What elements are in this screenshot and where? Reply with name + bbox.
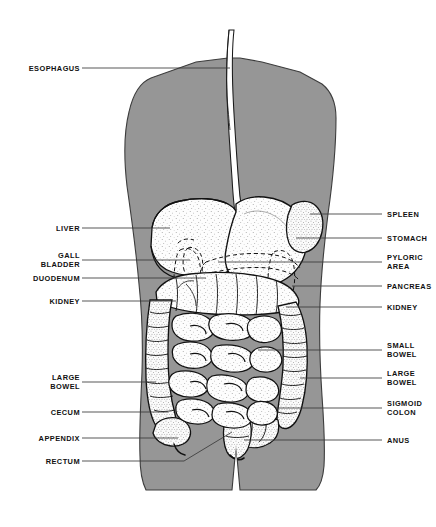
label-spleen: SPLEEN [387, 210, 436, 220]
anatomy-figure: ESOPHAGUS LIVER GALL BLADDER DUODENUM KI… [0, 0, 436, 527]
label-anus: ANUS [387, 436, 436, 446]
label-cecum: CECUM [0, 408, 80, 418]
label-large-bowel-right-line2: BOWEL [387, 378, 436, 388]
label-duodenum: DUODENUM [0, 274, 80, 284]
label-large-bowel-left-line2: BOWEL [0, 382, 80, 392]
label-esophagus: ESOPHAGUS [0, 64, 80, 74]
label-rectum: RECTUM [0, 457, 80, 467]
label-stomach: STOMACH [387, 234, 436, 244]
small-bowel-organ [169, 313, 282, 428]
label-pancreas: PANCREAS [387, 282, 436, 292]
label-pyloric-area-line2: AREA [387, 262, 436, 272]
label-gall-bladder-line2: BLADDER [0, 260, 80, 270]
label-sigmoid-colon-line2: COLON [387, 408, 436, 418]
label-small-bowel-line2: BOWEL [387, 350, 436, 360]
label-kidney-right: KIDNEY [387, 303, 436, 313]
label-appendix: APPENDIX [0, 434, 80, 444]
label-kidney-left: KIDNEY [0, 297, 80, 307]
label-liver: LIVER [0, 224, 80, 234]
